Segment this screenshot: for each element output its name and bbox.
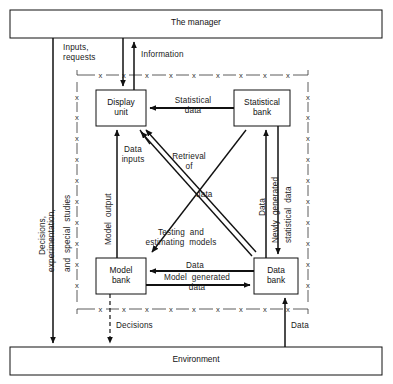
- svg-text:x: x: [306, 239, 310, 248]
- label-special-studies-vertical: and special studies: [63, 195, 73, 272]
- display-unit-label: Display unit: [96, 97, 146, 117]
- svg-text:x: x: [169, 71, 173, 80]
- svg-text:x: x: [239, 71, 243, 80]
- label-decisions-bottom: Decisions: [116, 321, 153, 331]
- svg-text:x: x: [75, 260, 79, 269]
- svg-text:x: x: [306, 176, 310, 185]
- label-information: Information: [141, 50, 184, 60]
- svg-text:x: x: [216, 305, 220, 314]
- svg-text:x: x: [306, 134, 310, 143]
- label-data-vertical-right: Data: [258, 198, 268, 216]
- label-experimentation-vertical: experimentation,: [47, 209, 57, 272]
- svg-text:x: x: [263, 71, 267, 80]
- svg-text:x: x: [306, 197, 310, 206]
- svg-text:x: x: [75, 239, 79, 248]
- label-inputs-requests: Inputs, requests: [63, 43, 96, 62]
- environment-bar-label: Environment: [10, 354, 382, 364]
- svg-text:x: x: [306, 113, 310, 122]
- manager-bar-label: The manager: [10, 17, 382, 27]
- label-retrieval-data-word: data: [196, 190, 213, 200]
- model-bank-label: Model bank: [96, 265, 146, 285]
- svg-text:x: x: [286, 71, 290, 80]
- statistical-bank-label: Statistical bank: [234, 97, 290, 117]
- svg-text:x: x: [75, 197, 79, 206]
- diagram-canvas: xxx xxx xxx xxx xxx xxx xxx xxx xxx x xx…: [0, 0, 393, 384]
- svg-text:x: x: [75, 93, 79, 102]
- svg-text:x: x: [75, 281, 79, 290]
- label-statistical-data: Statistical data: [155, 96, 231, 115]
- svg-text:x: x: [306, 93, 310, 102]
- svg-text:x: x: [99, 305, 103, 314]
- svg-text:x: x: [122, 305, 126, 314]
- svg-text:x: x: [286, 305, 290, 314]
- label-newly-generated-vertical: Newly generated: [271, 177, 281, 243]
- label-retrieval-of-data: Retrieval of: [164, 152, 214, 171]
- svg-text:x: x: [145, 71, 149, 80]
- svg-text:x: x: [239, 305, 243, 314]
- svg-text:x: x: [99, 71, 103, 80]
- svg-text:x: x: [216, 71, 220, 80]
- svg-text:x: x: [75, 134, 79, 143]
- label-data-inputs: Data inputs: [112, 145, 154, 164]
- label-data-bottom-right: Data: [291, 321, 309, 331]
- svg-text:x: x: [306, 281, 310, 290]
- svg-text:x: x: [263, 305, 267, 314]
- svg-text:x: x: [75, 218, 79, 227]
- svg-text:x: x: [192, 71, 196, 80]
- svg-text:x: x: [75, 113, 79, 122]
- svg-text:x: x: [192, 305, 196, 314]
- label-statistical-data-vertical: statistical data: [284, 186, 294, 243]
- svg-text:x: x: [75, 155, 79, 164]
- svg-text:x: x: [75, 176, 79, 185]
- svg-text:x: x: [169, 305, 173, 314]
- label-model-output-vertical: Model output: [104, 193, 114, 245]
- svg-text:x: x: [306, 155, 310, 164]
- label-testing-estimating-models: Testing and estimating models: [126, 228, 236, 247]
- svg-text:x: x: [145, 305, 149, 314]
- label-model-generated-data: Model generated data: [145, 273, 249, 292]
- data-bank-label: Data bank: [254, 265, 298, 285]
- svg-text:x: x: [306, 218, 310, 227]
- svg-text:x: x: [306, 260, 310, 269]
- label-data-horizontal: Data: [175, 261, 215, 271]
